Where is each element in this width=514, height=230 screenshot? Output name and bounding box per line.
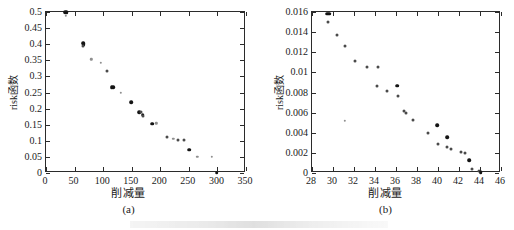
- y-tick-mark: [46, 157, 50, 158]
- y-tick-mark: [240, 157, 244, 158]
- y-tick-label: 0.4: [30, 38, 43, 49]
- scatter-point: [129, 100, 133, 104]
- y-tick-mark: [240, 173, 244, 174]
- y-tick-mark: [495, 93, 499, 94]
- y-tick-mark: [240, 109, 244, 110]
- scatter-points-b: [312, 12, 499, 171]
- y-tick-mark: [240, 93, 244, 94]
- scatter-point: [353, 59, 356, 62]
- x-tick-mark: [103, 12, 104, 16]
- scatter-point: [467, 159, 471, 163]
- x-tick-mark: [354, 12, 355, 16]
- scatter-point: [343, 45, 346, 48]
- x-tick-mark: [103, 167, 104, 171]
- y-tick-mark: [495, 173, 499, 174]
- y-axis-title-a: risk函数: [5, 58, 20, 128]
- y-tick-label: 0.016: [286, 6, 309, 17]
- y-tick-mark: [495, 12, 499, 13]
- scatter-point: [215, 171, 219, 175]
- x-tick-mark: [438, 12, 439, 16]
- y-tick-mark: [46, 44, 50, 45]
- y-tick-mark: [495, 153, 499, 154]
- scatter-point: [211, 156, 213, 158]
- chart-panel-a: 050100150200250300350 00.050.10.150.20.2…: [0, 0, 257, 230]
- x-tick-mark: [333, 12, 334, 16]
- y-tick-mark: [312, 93, 316, 94]
- y-tick-mark: [46, 12, 50, 13]
- scatter-point: [436, 123, 440, 127]
- y-tick-mark: [46, 109, 50, 110]
- scatter-point: [142, 114, 145, 117]
- y-tick-label: 0.35: [25, 54, 43, 65]
- y-tick-label: 0.3: [30, 70, 43, 81]
- chart-panel-b: 28303234363840424446 00.0020.0040.0060.0…: [257, 0, 514, 230]
- y-tick-label: 0.05: [25, 150, 43, 161]
- y-tick-mark: [495, 113, 499, 114]
- scatter-point: [65, 14, 67, 16]
- y-tick-mark: [312, 113, 316, 114]
- y-tick-label: 0.014: [286, 26, 309, 37]
- x-tick-mark: [46, 167, 47, 171]
- y-tick-mark: [240, 28, 244, 29]
- y-tick-mark: [240, 125, 244, 126]
- y-tick-mark: [46, 141, 50, 142]
- y-tick-mark: [240, 141, 244, 142]
- y-tick-label: 0: [37, 167, 42, 178]
- scatter-point: [437, 142, 440, 145]
- y-tick-mark: [46, 76, 50, 77]
- x-tick-mark: [501, 167, 502, 171]
- y-tick-label: 0.15: [25, 118, 43, 129]
- y-tick-label: 0: [303, 167, 308, 178]
- scatter-point: [172, 138, 174, 140]
- y-tick-mark: [495, 32, 499, 33]
- y-tick-mark: [46, 125, 50, 126]
- y-axis-title-b: risk函数: [271, 58, 286, 128]
- scatter-point: [376, 85, 379, 88]
- x-tick-mark: [189, 12, 190, 16]
- scatter-point: [182, 138, 185, 141]
- y-tick-label: 0.004: [286, 126, 309, 137]
- scatter-point: [196, 156, 198, 158]
- scatter-point: [366, 65, 369, 68]
- y-tick-mark: [495, 133, 499, 134]
- y-tick-label: 0.01: [291, 66, 309, 77]
- y-tick-label: 0.5: [30, 6, 43, 17]
- y-tick-label: 0.002: [286, 146, 309, 157]
- x-tick-mark: [480, 12, 481, 16]
- x-tick-mark: [217, 12, 218, 16]
- x-tick-mark: [246, 167, 247, 171]
- x-tick-mark: [417, 167, 418, 171]
- x-axis-title-b: 削减量: [257, 184, 514, 200]
- y-tick-mark: [495, 52, 499, 53]
- panel-caption-b: (b): [257, 203, 514, 215]
- scatter-point: [471, 168, 474, 171]
- y-tick-label: 0.45: [25, 22, 43, 33]
- y-tick-mark: [46, 28, 50, 29]
- y-tick-mark: [312, 72, 316, 73]
- y-tick-mark: [312, 12, 316, 13]
- x-tick-mark: [459, 167, 460, 171]
- x-tick-mark: [75, 167, 76, 171]
- x-tick-mark: [480, 167, 481, 171]
- x-tick-mark: [132, 167, 133, 171]
- scatter-point: [166, 136, 169, 139]
- x-tick-mark: [246, 12, 247, 16]
- scatter-point: [150, 122, 154, 126]
- scatter-point: [112, 85, 116, 89]
- y-tick-label: 0.008: [286, 86, 309, 97]
- scatter-point: [397, 95, 400, 98]
- scatter-point: [336, 34, 339, 37]
- scatter-point: [464, 152, 467, 155]
- figure-container: 050100150200250300350 00.050.10.150.20.2…: [0, 0, 514, 230]
- plot-area-a: [45, 11, 245, 172]
- panel-caption-a: (a): [0, 203, 257, 215]
- scatter-point: [188, 148, 192, 152]
- y-tick-label: 0.1: [30, 134, 43, 145]
- x-tick-mark: [160, 12, 161, 16]
- y-tick-mark: [240, 60, 244, 61]
- x-tick-mark: [354, 167, 355, 171]
- x-tick-mark: [132, 12, 133, 16]
- x-tick-mark: [217, 167, 218, 171]
- x-tick-mark: [438, 167, 439, 171]
- scatter-point: [449, 148, 452, 151]
